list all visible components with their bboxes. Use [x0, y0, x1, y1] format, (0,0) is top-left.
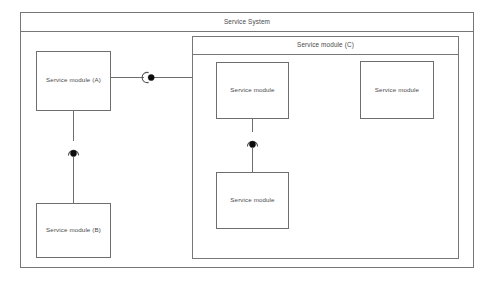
service-module-c-inner-top-left-label: Service module — [230, 86, 275, 93]
service-module-b-label: Service module (B) — [46, 226, 101, 233]
service-module-c-inner-top-right-label: Service module — [375, 86, 420, 93]
service-module-c-title: Service module (C) — [297, 41, 354, 49]
service-system-diagram: Service System Service module (C) Servic… — [0, 0, 493, 282]
connector-a-to-c-ball-icon — [148, 74, 154, 80]
service-module-c-inner-bottom-label: Service module — [230, 196, 275, 203]
connector-c-inner-ball-icon — [249, 141, 255, 147]
connector-a-to-b-ball-icon — [70, 150, 76, 156]
service-system-title: Service System — [224, 18, 270, 26]
diagram-canvas: Service System Service module (C) Servic… — [0, 0, 493, 282]
service-module-a-label: Service module (A) — [46, 76, 101, 83]
